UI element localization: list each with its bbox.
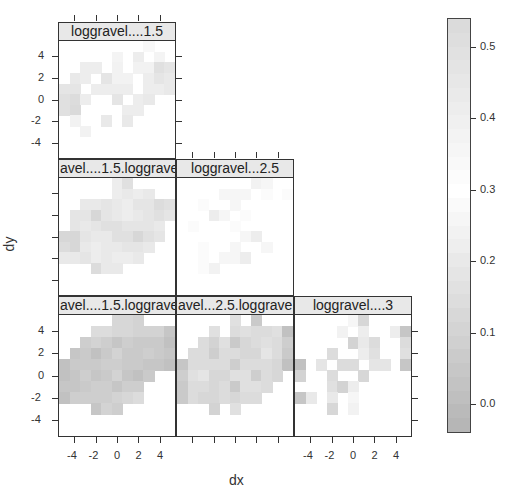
- heatmap-cell: [122, 337, 133, 349]
- y-tick: [52, 215, 58, 216]
- y-tick-label: -2: [31, 114, 41, 126]
- heatmap-cell: [80, 126, 91, 137]
- heatmap-cell: [133, 252, 144, 263]
- colorbar-band: [448, 281, 470, 295]
- heatmap-panel: [58, 314, 176, 437]
- heatmap-cell: [177, 359, 188, 371]
- heatmap-cell: [348, 403, 359, 415]
- heatmap-cell: [59, 105, 70, 116]
- x-tick: [214, 437, 215, 443]
- heatmap-cell: [91, 370, 102, 382]
- colorbar-tick-label: 0.5: [480, 40, 495, 52]
- heatmap-cell: [251, 359, 262, 371]
- colorbar-tick-label: 0.2: [480, 254, 495, 266]
- heatmap-cell: [198, 370, 209, 382]
- heatmap-cell: [122, 115, 133, 126]
- heatmap-cell: [198, 348, 209, 360]
- heatmap-cell: [164, 348, 175, 360]
- x-tick-label: 2: [371, 449, 377, 461]
- heatmap-cell: [59, 381, 70, 393]
- heatmap-cell: [282, 359, 293, 371]
- heatmap-cell: [91, 263, 102, 274]
- heatmap-cell: [251, 348, 262, 360]
- heatmap-cell: [122, 326, 133, 338]
- heatmap-cell: [133, 52, 144, 63]
- heatmap-cell: [112, 199, 123, 210]
- heatmap-cell: [327, 348, 338, 360]
- heatmap-cell: [91, 252, 102, 263]
- y-tick: [52, 353, 58, 354]
- heatmap-cell: [133, 221, 144, 232]
- panel-strip-title: avel....1.5.loggrave: [58, 159, 176, 178]
- heatmap-cell: [390, 326, 401, 338]
- x-tick-top: [192, 152, 193, 158]
- heatmap-cell: [358, 370, 369, 382]
- heatmap-cell: [164, 84, 175, 95]
- y-tick: [52, 258, 58, 259]
- heatmap-cell: [369, 348, 380, 360]
- x-tick: [117, 437, 118, 443]
- y-tick-label: 0: [38, 369, 44, 381]
- heatmap-cell: [143, 242, 154, 253]
- heatmap-cell: [122, 242, 133, 253]
- heatmap-cell: [209, 359, 220, 371]
- heatmap-cell: [143, 62, 154, 73]
- heatmap-cell: [230, 348, 241, 360]
- heatmap-cell: [154, 221, 165, 232]
- heatmap-cell: [261, 242, 272, 253]
- heatmap-cell: [164, 62, 175, 73]
- heatmap-cell: [133, 199, 144, 210]
- y-tick: [52, 237, 58, 238]
- heatmap-cell: [70, 210, 81, 221]
- heatmap-cell: [198, 263, 209, 274]
- colorbar-band: [448, 391, 470, 405]
- heatmap-cell: [209, 392, 220, 404]
- heatmap-cell: [122, 252, 133, 263]
- heatmap-cell: [133, 62, 144, 73]
- colorbar-band: [448, 404, 470, 418]
- heatmap-cell: [143, 337, 154, 349]
- heatmap-cell: [240, 210, 251, 221]
- colorbar-band: [448, 198, 470, 212]
- heatmap-cell: [133, 315, 144, 327]
- y-tick-right: [412, 353, 418, 354]
- heatmap-cell: [230, 337, 241, 349]
- x-tick-top: [96, 15, 97, 21]
- heatmap-cell: [101, 392, 112, 404]
- heatmap-cell: [240, 359, 251, 371]
- heatmap-cell: [154, 337, 165, 349]
- heatmap-cell: [400, 359, 411, 371]
- heatmap-cell: [112, 381, 123, 393]
- heatmap-cell: [327, 381, 338, 393]
- heatmap-cell: [143, 231, 154, 242]
- heatmap-cell: [70, 370, 81, 382]
- heatmap-cell: [154, 210, 165, 221]
- heatmap-cell: [122, 370, 133, 382]
- colorbar-band: [448, 363, 470, 377]
- colorbar-band: [448, 212, 470, 226]
- heatmap-cell: [143, 189, 154, 200]
- heatmap-cell: [112, 210, 123, 221]
- heatmap-cell: [198, 359, 209, 371]
- heatmap-cell: [230, 392, 241, 404]
- heatmap-cell: [70, 84, 81, 95]
- heatmap-cell: [251, 392, 262, 404]
- heatmap-cell: [251, 381, 262, 393]
- colorbar-band: [448, 294, 470, 308]
- heatmap-cell: [133, 392, 144, 404]
- heatmap-cell: [122, 84, 133, 95]
- colorbar-tick-label: 0.1: [480, 326, 495, 338]
- heatmap-cell: [219, 381, 230, 393]
- heatmap-cell: [112, 370, 123, 382]
- heatmap-cell: [188, 392, 199, 404]
- heatmap-cell: [59, 84, 70, 95]
- heatmap-cell: [122, 348, 133, 360]
- heatmap-cell: [101, 221, 112, 232]
- heatmap-cell: [112, 178, 123, 189]
- heatmap-cell: [70, 381, 81, 393]
- x-tick: [374, 437, 375, 443]
- heatmap-cell: [369, 359, 380, 371]
- x-tick: [332, 437, 333, 443]
- colorbar-tick: [471, 47, 476, 48]
- x-axis-title: dx: [229, 472, 244, 488]
